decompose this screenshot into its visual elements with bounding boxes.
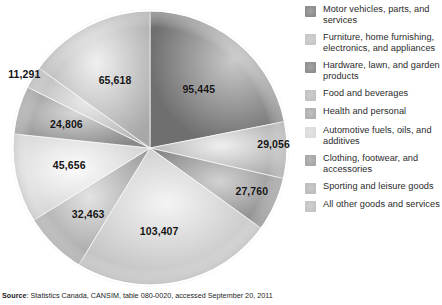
legend-item-label: Furniture, home furnishing, electronics,… — [323, 32, 442, 54]
source-note: Source: Statistics Canada, CANSIM, table… — [2, 291, 273, 300]
legend-swatch-icon — [305, 90, 316, 101]
pie-slice-value-label: 29,056 — [257, 138, 290, 150]
pie-slice-value-label: 27,760 — [235, 185, 268, 197]
pie-slice-value-label: 65,618 — [99, 74, 132, 86]
source-text: : Statistics Canada, CANSIM, table 080-0… — [27, 291, 273, 300]
legend-swatch-icon — [305, 155, 316, 166]
pie-slice-value-label: 45,656 — [53, 159, 86, 171]
pie-slice-value-label: 103,407 — [140, 225, 179, 237]
pie-slices-group — [13, 11, 287, 285]
legend-item[interactable]: Clothing, footwear, and accessories — [305, 153, 442, 175]
legend-item[interactable]: Health and personal — [305, 106, 442, 119]
chart-legend: Motor vehicles, parts, and servicesFurni… — [305, 4, 442, 218]
legend-item[interactable]: Sporting and leisure goods — [305, 181, 442, 194]
legend-swatch-icon — [305, 201, 316, 212]
legend-item-label: Clothing, footwear, and accessories — [323, 153, 442, 175]
legend-swatch-icon — [305, 127, 316, 138]
legend-item-label: Food and beverages — [323, 88, 408, 99]
legend-item[interactable]: Motor vehicles, parts, and services — [305, 4, 442, 26]
legend-item[interactable]: All other goods and services — [305, 199, 442, 212]
legend-item[interactable]: Hardware, lawn, and garden products — [305, 60, 442, 82]
legend-item-label: All other goods and services — [323, 199, 440, 210]
legend-swatch-icon — [305, 108, 316, 119]
pie-chart-plot-area: 95,44529,05627,760103,40732,46345,65624,… — [0, 0, 300, 292]
pie-slice-value-label: 95,445 — [182, 83, 215, 95]
pie-chart-svg — [0, 0, 300, 292]
pie-chart-figure: 95,44529,05627,760103,40732,46345,65624,… — [0, 0, 442, 305]
legend-item-label: Hardware, lawn, and garden products — [323, 60, 442, 82]
pie-slice-value-label: 24,806 — [50, 118, 83, 130]
legend-swatch-icon — [305, 34, 316, 45]
pie-slice-value-label: 32,463 — [72, 208, 105, 220]
pie-slice-value-label: 11,291 — [8, 68, 40, 80]
source-label: Source — [2, 291, 27, 300]
legend-item[interactable]: Food and beverages — [305, 88, 442, 101]
legend-item[interactable]: Automotive fuels, oils, and additives — [305, 125, 442, 147]
legend-item[interactable]: Furniture, home furnishing, electronics,… — [305, 32, 442, 54]
legend-swatch-icon — [305, 6, 316, 17]
legend-item-label: Motor vehicles, parts, and services — [323, 4, 442, 26]
legend-item-label: Automotive fuels, oils, and additives — [323, 125, 442, 147]
legend-swatch-icon — [305, 183, 316, 194]
legend-swatch-icon — [305, 62, 316, 73]
legend-item-label: Sporting and leisure goods — [323, 181, 434, 192]
legend-item-label: Health and personal — [323, 106, 406, 117]
